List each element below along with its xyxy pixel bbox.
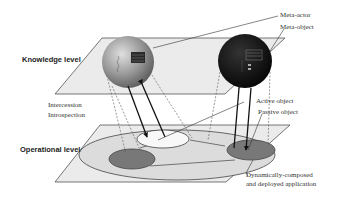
passive-object-ellipse [109, 149, 155, 169]
operational-level-label: Operational level [20, 145, 80, 154]
application-label-line2: and deployed application [246, 180, 317, 188]
reflective-architecture-diagram: Knowledge level Operational level Interc… [0, 0, 340, 198]
meta-object-label: Meta-object [280, 23, 314, 31]
intercession-label: Intercession [48, 101, 82, 109]
meta-actor-label: Meta-actor [280, 11, 311, 19]
meta-actor-sphere [102, 36, 154, 88]
passive-object-label: Passive object [258, 108, 298, 116]
introspection-label: Introspection [48, 111, 85, 119]
application-label-line1: Dynamically-composed [246, 171, 313, 179]
meta-object-sphere [218, 34, 272, 88]
active-object-label: Active object [256, 97, 294, 105]
knowledge-level-label: Knowledge level [22, 55, 81, 64]
